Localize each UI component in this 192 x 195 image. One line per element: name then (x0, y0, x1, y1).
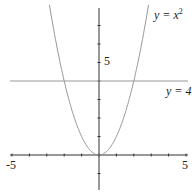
plot-area (0, 0, 192, 195)
y-tick-label-5: 5 (104, 54, 110, 69)
label-line-y4: y = 4 (166, 84, 191, 99)
x-tick-label-neg5: -5 (6, 158, 16, 173)
graph: 5 -5 5 y = x2 y = 4 (0, 0, 192, 195)
label-parabola: y = x2 (154, 7, 183, 23)
x-tick-label-5: 5 (182, 158, 188, 173)
